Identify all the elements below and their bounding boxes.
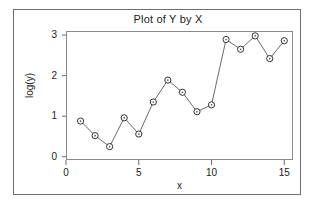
x-axis-ticks bbox=[66, 160, 284, 165]
y-axis-ticks bbox=[62, 35, 66, 157]
data-point-center-dot bbox=[182, 91, 184, 93]
data-point-center-dot bbox=[138, 133, 140, 135]
data-point-center-dot bbox=[240, 48, 242, 50]
plot-svg bbox=[0, 0, 312, 204]
data-point-center-dot bbox=[152, 101, 154, 103]
data-point-center-dot bbox=[211, 104, 213, 106]
data-point-center-dot bbox=[80, 120, 82, 122]
chart-figure: Plot of Y by X log(y) x 0123 051015 bbox=[0, 0, 312, 204]
data-point-center-dot bbox=[167, 79, 169, 81]
data-point-center-dot bbox=[225, 39, 227, 41]
data-point-center-dot bbox=[109, 146, 111, 148]
data-point-center-dot bbox=[254, 35, 256, 37]
data-point-center-dot bbox=[196, 111, 198, 113]
data-point-center-dot bbox=[283, 40, 285, 42]
data-point-markers bbox=[77, 33, 287, 150]
data-point-center-dot bbox=[94, 135, 96, 137]
data-point-center-dot bbox=[269, 58, 271, 60]
data-point-center-dot bbox=[123, 117, 125, 119]
